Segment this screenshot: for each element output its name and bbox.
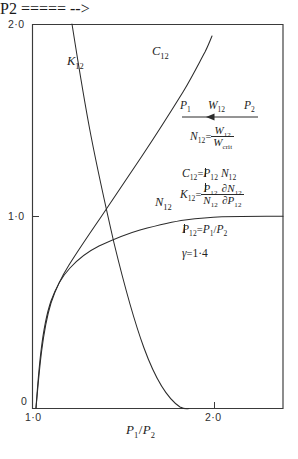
- equation-c12-lhs: C: [182, 167, 190, 179]
- y-tick-label-2-0: 2·0: [8, 19, 24, 30]
- equation-n12-num-sub: 12: [224, 131, 231, 139]
- curve-label-c12-sub: 12: [160, 51, 169, 61]
- y-tick-label-1-0: 1·0: [8, 211, 24, 222]
- x-axis-title: P1/P2: [126, 422, 155, 438]
- schematic-p1-sub: 1: [187, 105, 191, 114]
- equation-k12: K12=P12N12∂N12∂P12: [180, 184, 244, 207]
- schematic-p1: P1: [180, 99, 191, 111]
- equation-p12-lhs-sub: 12: [189, 229, 197, 238]
- curve-label-n12: N12: [155, 196, 172, 209]
- flow-schematic: P1 W12 P2: [176, 99, 280, 125]
- equation-k12-f2-numerator: ∂N12: [220, 183, 244, 194]
- equation-n12-num-w: W: [215, 124, 224, 136]
- x-axis-title-p2-sub: 2: [151, 430, 155, 440]
- equation-gamma-value: 1·4: [192, 247, 207, 259]
- schematic-w12-text: W: [208, 99, 218, 111]
- equation-c12-lhs-sub: 12: [190, 173, 198, 182]
- equation-k12-f1-num-sub: 12: [210, 189, 217, 197]
- plot-canvas: [0, 0, 298, 459]
- figure-container: 2·0 1·0 0 1·0 2·0 P1/P2 K12 C12 N12 P2 =…: [0, 0, 298, 459]
- equation-c12-n: N: [221, 167, 229, 179]
- x-axis-title-p1-sub: 1: [134, 430, 138, 440]
- schematic-w12: W12: [208, 99, 225, 111]
- schematic-p2-sub: 2: [251, 105, 255, 114]
- equation-c12-p-sub: 12: [210, 173, 218, 182]
- equation-p12: P12=P1/P2: [182, 224, 227, 236]
- equation-gamma: γ=1·4: [182, 248, 208, 260]
- equation-k12-fraction-2: ∂N12∂P12: [220, 183, 244, 206]
- equation-k12-f1-den-sub: 12: [211, 201, 218, 209]
- x-axis-title-p2: P: [143, 422, 151, 437]
- curve-n12: [36, 216, 283, 408]
- equation-c12: C12=P12 N12: [182, 168, 236, 180]
- equation-k12-f2-num-sub: 12: [235, 189, 242, 197]
- equation-k12-fraction-1: P12N12: [201, 183, 220, 206]
- curve-label-c12: C12: [152, 45, 169, 58]
- equation-n12-fraction: W12Wcrit: [211, 125, 234, 148]
- x-axis-title-p1: P: [126, 422, 134, 437]
- equation-n12-lhs-sub: 12: [198, 136, 206, 145]
- x-tick-label-2-0: 2·0: [205, 412, 221, 423]
- equation-p12-den: P: [216, 223, 223, 235]
- y-tick-label-0: 0: [21, 396, 27, 407]
- equation-k12-lhs: K: [180, 188, 188, 200]
- curve-label-k12: K12: [67, 55, 84, 68]
- equation-p12-lhs: P: [182, 223, 189, 235]
- equation-c12-n-sub: 12: [229, 173, 237, 182]
- curve-label-k12-sub: 12: [75, 61, 84, 71]
- equation-p12-num: P: [203, 223, 210, 235]
- equation-p12-num-sub: 1: [210, 229, 214, 238]
- equation-n12-den-sub: crit: [222, 143, 232, 151]
- curve-label-n12-sub: 12: [163, 202, 172, 212]
- equation-n12-lhs: N: [190, 130, 198, 142]
- equation-p12-den-sub: 2: [224, 229, 228, 238]
- equation-k12-f2-den-dp: ∂P: [222, 194, 234, 206]
- schematic-p2: P2: [244, 99, 255, 111]
- curve-c12: [36, 36, 212, 408]
- equation-k12-f2-num-dn: ∂N: [222, 182, 235, 194]
- schematic-p1-text: P: [180, 99, 187, 111]
- schematic-w12-sub: 12: [218, 105, 226, 114]
- equation-k12-f2-den-sub: 12: [234, 201, 241, 209]
- curve-k12: [72, 24, 189, 409]
- equation-n12-numerator: W12: [211, 125, 234, 136]
- equation-k12-lhs-sub: 12: [188, 194, 196, 203]
- equation-k12-f1-numerator: P12: [201, 183, 220, 194]
- schematic-p2-text: P: [244, 99, 251, 111]
- x-tick-label-1-0: 1·0: [25, 412, 41, 423]
- equation-n12: N12=W12Wcrit: [190, 126, 234, 149]
